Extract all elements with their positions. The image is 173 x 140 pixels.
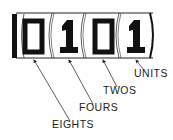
- label-eights: EIGHTS: [52, 118, 94, 130]
- arrow-fours: [69, 60, 93, 104]
- right-edge: [150, 13, 153, 58]
- separator-3: [116, 13, 119, 58]
- label-fours: FOURS: [79, 101, 118, 113]
- arrow-twos: [103, 60, 117, 87]
- separator-1: [49, 13, 52, 58]
- binary-counter-diagram: 0 1 0 1 UNITS TWOS FOURS EIGHTS: [0, 0, 173, 140]
- left-bar: [12, 14, 17, 58]
- arrow-eights: [34, 60, 70, 121]
- label-units: UNITS: [134, 67, 168, 79]
- label-twos: TWOS: [103, 84, 137, 96]
- separator-2: [81, 13, 84, 58]
